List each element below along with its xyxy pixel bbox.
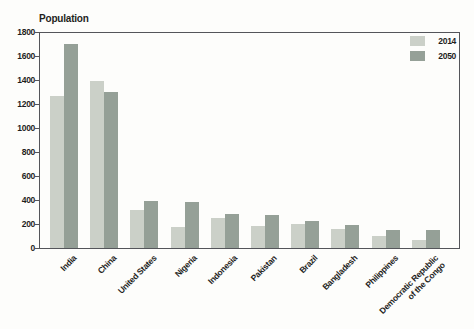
- x-label-nigeria: Nigeria: [173, 253, 199, 279]
- population-bar-chart: Population 02004006008001000120014001600…: [0, 0, 474, 329]
- bar-bangladesh-2014: [331, 229, 345, 248]
- bar-brazil-2050: [305, 221, 319, 249]
- bar-united-states-2014: [130, 210, 144, 248]
- x-label-china: China: [96, 253, 119, 276]
- y-tick-1600: [35, 56, 39, 57]
- x-label-india: India: [58, 253, 78, 273]
- chart-title: Population: [39, 13, 89, 24]
- legend-swatch-2014: [410, 36, 425, 46]
- legend-label-2014: 2014: [433, 36, 456, 46]
- y-tick-600: [35, 176, 39, 177]
- y-tick-0: [35, 248, 39, 249]
- y-tick-label-1800: 1800: [0, 28, 35, 37]
- bar-pakistan-2014: [251, 226, 265, 248]
- legend-swatch-2050: [410, 51, 425, 61]
- y-tick-label-1400: 1400: [0, 76, 35, 85]
- bar-nigeria-2014: [171, 227, 185, 248]
- x-label-brazil: Brazil: [297, 253, 319, 275]
- x-label-pakistan: Pakistan: [249, 253, 279, 283]
- legend-item-2050: 2050: [410, 51, 456, 61]
- legend: 2014 2050: [410, 36, 456, 66]
- y-tick-1200: [35, 104, 39, 105]
- y-tick-400: [35, 200, 39, 201]
- bar-indonesia-2014: [211, 218, 225, 248]
- legend-label-2050: 2050: [433, 51, 456, 61]
- bar-pakistan-2050: [265, 215, 279, 249]
- bar-democratic-republic-of-the-congo-2014: [412, 240, 426, 248]
- bar-china-2050: [104, 92, 118, 248]
- x-label-bangladesh: Bangladesh: [320, 253, 359, 292]
- bar-brazil-2014: [291, 224, 305, 248]
- bar-philippines-2050: [386, 230, 400, 248]
- y-tick-label-1200: 1200: [0, 100, 35, 109]
- y-tick-800: [35, 152, 39, 153]
- bar-india-2050: [64, 44, 78, 248]
- x-label-united-states: United States: [116, 253, 159, 296]
- y-tick-label-1600: 1600: [0, 52, 35, 61]
- bar-china-2014: [90, 81, 104, 248]
- legend-item-2014: 2014: [410, 36, 456, 46]
- y-tick-label-400: 400: [0, 196, 35, 205]
- y-tick-label-800: 800: [0, 148, 35, 157]
- y-tick-label-200: 200: [0, 220, 35, 229]
- y-tick-1800: [35, 32, 39, 33]
- bar-democratic-republic-of-the-congo-2050: [426, 230, 440, 248]
- x-label-philippines: Philippines: [363, 253, 400, 290]
- bar-indonesia-2050: [225, 214, 239, 249]
- y-tick-1400: [35, 80, 39, 81]
- bar-india-2014: [50, 96, 64, 249]
- y-tick-label-0: 0: [0, 244, 35, 253]
- bar-nigeria-2050: [185, 202, 199, 249]
- y-tick-label-1000: 1000: [0, 124, 35, 133]
- bar-bangladesh-2050: [345, 225, 359, 248]
- y-tick-1000: [35, 128, 39, 129]
- y-tick-label-600: 600: [0, 172, 35, 181]
- y-tick-200: [35, 224, 39, 225]
- x-label-indonesia: Indonesia: [206, 253, 239, 286]
- bar-philippines-2014: [372, 236, 386, 248]
- bar-united-states-2050: [144, 201, 158, 249]
